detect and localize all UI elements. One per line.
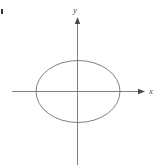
x-axis-label: x [149, 87, 153, 96]
corner-crop-mark [1, 9, 3, 14]
x-axis-arrowhead [138, 89, 145, 94]
y-axis-label: y [73, 6, 77, 15]
ellipse-diagram: y x [0, 0, 158, 165]
y-axis-arrowhead [75, 17, 80, 24]
coordinate-plane-svg [0, 0, 158, 165]
